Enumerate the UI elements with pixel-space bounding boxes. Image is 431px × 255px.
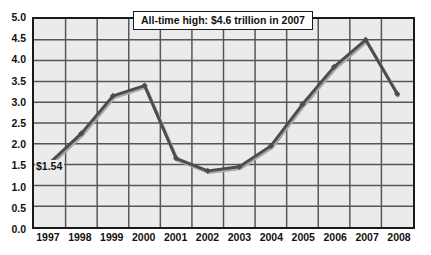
y-axis-tick-label: 2.5 bbox=[11, 118, 26, 129]
x-axis-tick-label: 2001 bbox=[164, 232, 187, 243]
plot-canvas bbox=[34, 19, 413, 227]
x-axis-labels: 1997199819992000200120022003200420052006… bbox=[32, 232, 415, 250]
y-axis-tick-label: 4.0 bbox=[11, 54, 26, 65]
chart-title bbox=[0, 0, 431, 1]
y-axis-tick-label: 1.0 bbox=[11, 181, 26, 192]
y-axis-tick-label: 2.0 bbox=[11, 139, 26, 150]
x-axis-tick-label: 2007 bbox=[355, 232, 378, 243]
x-axis-tick-label: 1999 bbox=[100, 232, 123, 243]
y-axis-tick-label: 3.0 bbox=[11, 97, 26, 108]
x-axis-tick-label: 1997 bbox=[36, 232, 59, 243]
y-axis-tick-label: 0.0 bbox=[11, 224, 26, 235]
x-axis-tick-label: 1998 bbox=[68, 232, 91, 243]
x-axis-tick-label: 2002 bbox=[196, 232, 219, 243]
x-axis-tick-label: 2005 bbox=[292, 232, 315, 243]
y-axis-tick-label: 3.5 bbox=[11, 75, 26, 86]
line-chart: 5.04.54.03.53.02.52.01.51.00.50.0 199719… bbox=[0, 0, 431, 255]
x-axis-tick-label: 2003 bbox=[228, 232, 251, 243]
plot-area bbox=[32, 17, 415, 229]
y-axis-labels: 5.04.54.03.53.02.52.01.51.00.50.0 bbox=[0, 17, 29, 229]
x-axis-tick-label: 2006 bbox=[324, 232, 347, 243]
y-axis-tick-label: 5.0 bbox=[11, 12, 26, 23]
x-axis-tick-label: 2004 bbox=[260, 232, 283, 243]
y-axis-tick-label: 1.5 bbox=[11, 160, 26, 171]
x-axis-tick-label: 2000 bbox=[132, 232, 155, 243]
all-time-high-callout: All-time high: $4.6 trillion in 2007 bbox=[133, 11, 313, 30]
y-axis-tick-label: 0.5 bbox=[11, 203, 26, 214]
first-point-value-label: $1.54 bbox=[35, 160, 64, 173]
x-axis-tick-label: 2008 bbox=[387, 232, 410, 243]
y-axis-tick-label: 4.5 bbox=[11, 33, 26, 44]
